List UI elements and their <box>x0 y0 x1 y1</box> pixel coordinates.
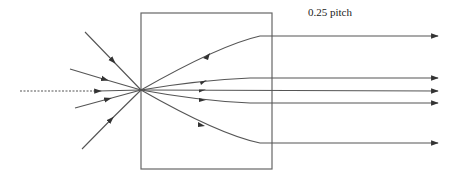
grin-lens-box <box>141 13 272 169</box>
incoming-ray-5 <box>82 90 141 149</box>
grin-lens-diagram <box>0 0 449 180</box>
outgoing-ray-4 <box>141 90 438 103</box>
incoming-ray-axis <box>98 90 141 91</box>
pitch-label: 0.25 pitch <box>308 6 352 18</box>
outgoing-ray-5 <box>141 90 438 143</box>
outgoing-rays <box>141 36 438 143</box>
incoming-rays <box>20 32 141 149</box>
outgoing-ray-1 <box>141 36 438 90</box>
outgoing-ray-2 <box>141 78 438 90</box>
outgoing-ray-3 <box>141 90 438 91</box>
